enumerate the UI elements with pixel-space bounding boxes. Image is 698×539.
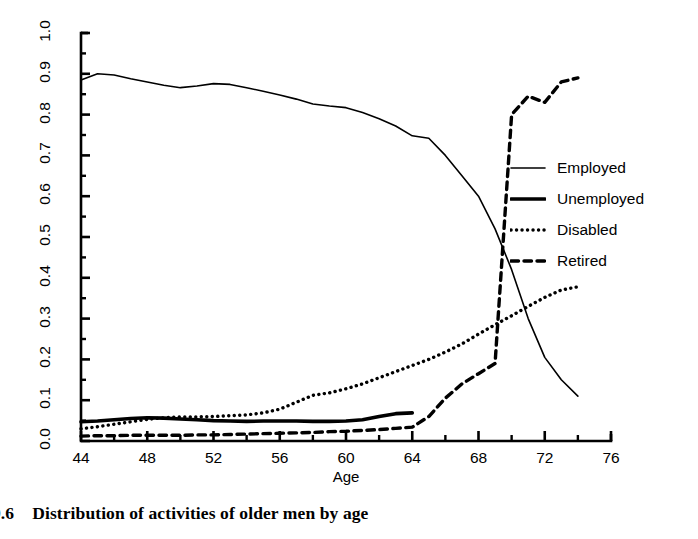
y-tick-label: 1.0 xyxy=(36,5,54,57)
figure: 0.00.10.20.30.40.50.60.70.80.91.0 444852… xyxy=(0,0,698,539)
caption-number: 9.6 xyxy=(0,503,14,524)
x-tick-label: 52 xyxy=(189,449,239,467)
x-axis-title: Age xyxy=(81,468,611,485)
x-tick-label: 44 xyxy=(56,449,106,467)
x-tick-label: 56 xyxy=(255,449,305,467)
x-tick-label: 72 xyxy=(520,449,570,467)
plot-area: 0.00.10.20.30.40.50.60.70.80.91.0 444852… xyxy=(0,0,698,495)
series-line-disabled xyxy=(81,287,578,429)
legend-key-unemployed-icon xyxy=(510,192,546,206)
x-tick-label: 64 xyxy=(387,449,437,467)
series-line-retired xyxy=(81,78,578,436)
figure-caption: 9.6Distribution of activities of older m… xyxy=(0,503,698,524)
legend-label: Disabled xyxy=(557,222,617,238)
legend-item-disabled[interactable]: Disabled xyxy=(510,214,695,245)
series-layer xyxy=(81,74,578,436)
legend-key-retired-icon xyxy=(510,254,546,268)
legend-key-employed-icon xyxy=(510,161,546,175)
caption-text: Distribution of activities of older men … xyxy=(32,503,368,524)
legend-item-employed[interactable]: Employed xyxy=(510,152,695,183)
legend-label: Employed xyxy=(557,160,626,176)
legend-item-retired[interactable]: Retired xyxy=(510,245,695,276)
chart-legend: EmployedUnemployedDisabledRetired xyxy=(510,152,695,276)
x-tick-label: 60 xyxy=(321,449,371,467)
x-tick-label: 76 xyxy=(586,449,636,467)
legend-item-unemployed[interactable]: Unemployed xyxy=(510,183,695,214)
legend-label: Unemployed xyxy=(557,191,644,207)
x-tick-label: 68 xyxy=(454,449,504,467)
legend-key-disabled-icon xyxy=(510,223,546,237)
legend-label: Retired xyxy=(557,253,607,269)
x-tick-label: 48 xyxy=(122,449,172,467)
